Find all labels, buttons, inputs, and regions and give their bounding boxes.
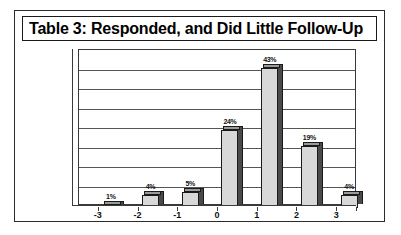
bar-column[interactable]: 19% bbox=[292, 52, 332, 208]
x-axis-label: 0 bbox=[214, 210, 219, 220]
x-axis-label: -3 bbox=[94, 210, 102, 220]
bar-value-label: 19% bbox=[303, 134, 316, 141]
bar-value-label: 4% bbox=[146, 183, 156, 190]
bar-column[interactable]: 4% bbox=[133, 52, 173, 208]
bar-column[interactable]: 4% bbox=[331, 52, 371, 208]
plot-area: 1%4%5%24%43%19%4% bbox=[78, 49, 356, 205]
bar-side-face bbox=[238, 126, 243, 204]
bar-body: 43% bbox=[261, 63, 278, 208]
bar-value-label: 5% bbox=[186, 180, 196, 187]
bar-body: 24% bbox=[221, 125, 238, 208]
x-axis-label: 2 bbox=[294, 210, 299, 220]
bar-column[interactable]: 43% bbox=[252, 52, 292, 208]
bar-value-label: 24% bbox=[223, 118, 236, 125]
bar-front-face bbox=[261, 68, 278, 208]
x-axis: -3-2-10123 bbox=[78, 207, 356, 221]
bar-column[interactable]: 24% bbox=[212, 52, 252, 208]
bar-body: 19% bbox=[301, 141, 318, 208]
bars-layer: 1%4%5%24%43%19%4% bbox=[93, 52, 371, 208]
bar-side-face bbox=[318, 142, 323, 204]
bar-front-face bbox=[301, 146, 318, 208]
x-axis-label: -1 bbox=[173, 210, 181, 220]
figure-frame: Table 3: Responded, and Did Little Follo… bbox=[14, 10, 385, 222]
x-axis-label: -2 bbox=[134, 210, 142, 220]
x-axis-label: 1 bbox=[254, 210, 259, 220]
bar-value-label: 4% bbox=[344, 183, 354, 190]
bar-value-label: 43% bbox=[263, 56, 276, 63]
bar-chart: 1%4%5%24%43%19%4% -3-2-10123 bbox=[64, 47, 356, 219]
bar-value-label: 1% bbox=[106, 193, 116, 200]
bar-column[interactable]: 5% bbox=[172, 52, 212, 208]
chart-title-box: Table 3: Responded, and Did Little Follo… bbox=[22, 16, 377, 41]
bar-column[interactable]: 1% bbox=[93, 52, 133, 208]
x-axis-label: 3 bbox=[334, 210, 339, 220]
x-axis-tick bbox=[356, 207, 357, 211]
bar-side-face bbox=[278, 64, 283, 204]
page-title: Table 3: Responded, and Did Little Follo… bbox=[23, 20, 363, 38]
bar-front-face bbox=[221, 130, 238, 208]
